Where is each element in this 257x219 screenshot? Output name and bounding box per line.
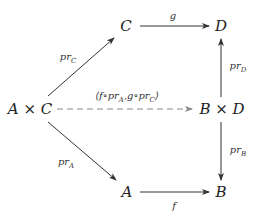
- label-pr-a: prA: [58, 156, 74, 170]
- label-pr-text: pr: [60, 51, 71, 62]
- label-pr-text: pr: [58, 156, 69, 167]
- label-pair-f: f∘pr: [99, 90, 119, 101]
- label-sub-a: A: [69, 162, 74, 170]
- node-d: D: [215, 17, 227, 35]
- label-g: g: [170, 10, 176, 21]
- commutative-diagram: C D A × C B × D A B g prC prD ⟨f∘prA,g∘p…: [0, 0, 257, 219]
- label-pr-c: prC: [60, 51, 77, 65]
- node-c: C: [120, 17, 131, 35]
- arrow-pr-a: [48, 122, 116, 180]
- arrow-pr-c: [48, 38, 114, 96]
- node-a-times-c: A × C: [8, 100, 52, 118]
- label-pair-close: ⟩: [155, 90, 159, 101]
- label-pr-text: pr: [230, 144, 241, 155]
- label-pr-text: pr: [230, 60, 241, 71]
- label-f: f: [172, 200, 176, 211]
- label-pr-b: prB: [230, 144, 246, 158]
- label-pair-sep: ,g∘pr: [124, 90, 150, 101]
- label-sub-d: D: [241, 66, 247, 74]
- label-pairing: ⟨f∘prA,g∘prC⟩: [95, 90, 159, 104]
- label-sub-b: B: [241, 150, 246, 158]
- node-a: A: [122, 183, 133, 201]
- node-b-times-d: B × D: [199, 100, 244, 118]
- label-pr-d: prD: [230, 60, 247, 74]
- label-sub-c: C: [71, 57, 76, 65]
- node-b: B: [215, 183, 226, 201]
